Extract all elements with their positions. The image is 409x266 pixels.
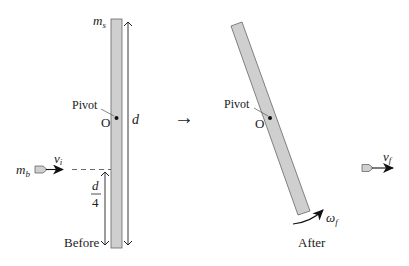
pivot-point-label-before: O [101, 115, 110, 130]
caption-after: After [298, 235, 326, 250]
svg-text:4: 4 [92, 195, 99, 210]
bullet-velocity-label-after: vf [383, 149, 393, 165]
bullet-velocity-label-before: vi [54, 151, 63, 167]
offset-label: d 4 [91, 178, 101, 210]
pivot-point-label-after: O [255, 116, 264, 131]
pivot-dot-before [115, 116, 119, 120]
before-panel: ms d Pivot O mb vi d 4 Before [16, 13, 140, 250]
bullet-after [362, 165, 372, 172]
rod-mass-label: ms [93, 13, 106, 30]
angular-velocity-label: ωf [326, 210, 339, 227]
bullet-before [35, 166, 46, 173]
after-panel: Pivot O ωf vf After [224, 22, 393, 250]
diagram-canvas: ms d Pivot O mb vi d 4 Before [0, 0, 409, 266]
pivot-label-after: Pivot [224, 97, 250, 111]
length-label: d [132, 112, 140, 127]
caption-before: Before [64, 235, 100, 250]
transition-arrow: → [174, 106, 194, 128]
bullet-mass-label: mb [16, 162, 30, 179]
rod-before [111, 19, 122, 248]
svg-text:d: d [92, 178, 99, 193]
pivot-label-before: Pivot [72, 98, 98, 112]
pivot-dot-after [268, 116, 272, 120]
